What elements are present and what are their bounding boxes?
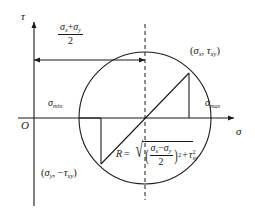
origin-label: O (21, 120, 29, 131)
sigma-axis-label: σ (236, 126, 241, 137)
tau-exponent: 2 (192, 149, 195, 155)
point-sigma-x-label: (σx, τxy) (190, 46, 220, 57)
radius-symbol: R (116, 149, 122, 159)
sigma-min-subscript: min (53, 102, 62, 109)
radius-formula-label: R= √ ( σx−σy 2 )2 + τxy2 (116, 141, 193, 168)
formula-plus: + (182, 150, 188, 160)
center-distance-label: σx+σy 2 (58, 22, 83, 46)
tau-squared-term: τxy2 (189, 150, 193, 160)
tau-axis-label: τ (21, 11, 25, 22)
inner-open-paren: ( (145, 149, 148, 163)
radical-body: ( σx−σy 2 )2 + τxy2 (142, 141, 194, 168)
center-fraction-denominator: 2 (58, 35, 83, 46)
radical-sign: √ (135, 141, 142, 168)
radius-equals: = (124, 149, 130, 159)
sigma-max-label: σmax (205, 98, 220, 109)
tau-subscript: xy (192, 155, 197, 161)
sigma-max-subscript: max (210, 102, 220, 109)
sigma-min-label: σmin (48, 98, 62, 109)
point-sigma-y-label: (σy, −τxy) (41, 168, 77, 179)
mohrs-circle-canvas (0, 0, 255, 222)
inner-fraction-numerator: σx−σy (150, 143, 173, 156)
mohrs-circle-figure: τ σ O σmin σmax (σx, τxy) (σy, −τxy) σx+… (0, 0, 255, 222)
paren-exponent: 2 (178, 152, 181, 158)
inner-fraction-denominator: 2 (150, 156, 173, 168)
radical: √ ( σx−σy 2 )2 + τxy2 (131, 141, 194, 168)
inner-fraction: σx−σy 2 (150, 143, 173, 168)
center-fraction-numerator: σx+σy (58, 22, 83, 35)
inner-close-paren: ) (174, 149, 177, 163)
